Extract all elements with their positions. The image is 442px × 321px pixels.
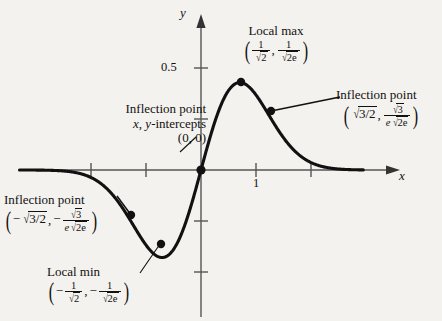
- sqrt-icon: √2e: [280, 51, 298, 63]
- x-tick-label-1: 1: [253, 176, 259, 190]
- paren-open: (: [6, 210, 11, 231]
- inflection-right-y-fraction: √3 e√2e: [383, 103, 411, 128]
- inflection-right-coordinates: (√3/2, √3 e√2e ): [336, 103, 420, 128]
- local-max-x-fraction: 1 √2: [251, 39, 270, 63]
- minus-sign: −: [13, 212, 21, 227]
- annotation-local-min: Local min (− 1 √2 ,− 1 √2e ): [47, 265, 130, 304]
- local-max-coordinates: ( 1 √2 , 1 √2e ): [216, 39, 336, 63]
- sqrt-icon: √2e: [69, 221, 87, 233]
- paren-close: ): [123, 281, 128, 302]
- annotation-inflection-left: Inflection point (−√3/2,− √3 e√2e ): [4, 193, 99, 233]
- local-max-y-fraction: 1 √2e: [277, 39, 301, 63]
- point-inflection-left: [127, 211, 135, 219]
- y-tick-label-0.5: 0.5: [161, 60, 177, 74]
- sqrt-icon: √2: [254, 51, 267, 63]
- y-axis-label: y: [180, 6, 186, 21]
- minus-sign: −: [53, 212, 61, 227]
- paren-close: ): [302, 40, 307, 61]
- point-local-max: [237, 78, 245, 86]
- local-min-y-fraction: 1 √2e: [98, 280, 122, 304]
- paren-open: (: [49, 281, 54, 302]
- point-local-min: [157, 240, 165, 248]
- inflection-left-y-fraction: √3 e√2e: [62, 208, 90, 233]
- point-origin: [196, 165, 205, 174]
- inflection-left-title: Inflection point: [4, 193, 99, 208]
- origin-coordinates: (0, 0): [88, 131, 206, 146]
- local-min-title: Local min: [47, 265, 130, 280]
- local-max-title: Local max: [216, 24, 336, 39]
- sqrt-icon: √3/2: [21, 211, 47, 227]
- origin-intercepts: x, y-intercepts: [88, 117, 206, 132]
- x-axis-label: x: [399, 169, 405, 184]
- sqrt-icon: √3/2: [351, 106, 377, 122]
- sqrt-icon: √3: [69, 208, 82, 220]
- paren-close: ): [413, 105, 418, 126]
- paren-open: (: [244, 40, 249, 61]
- local-min-x-fraction: 1 √2: [64, 280, 83, 304]
- local-min-coordinates: (− 1 √2 ,− 1 √2e ): [47, 280, 130, 304]
- sqrt-icon: √3: [391, 103, 404, 115]
- leader-inflection-right: [271, 97, 340, 111]
- annotation-inflection-right: Inflection point (√3/2, √3 e√2e ): [336, 88, 420, 128]
- paren-close: ): [92, 210, 97, 231]
- point-inflection-right: [267, 107, 275, 115]
- annotation-local-max: Local max ( 1 √2 , 1 √2e ): [216, 24, 336, 63]
- annotation-origin: Inflection point x, y-intercepts (0, 0): [88, 102, 206, 146]
- sqrt-icon: √2: [67, 292, 80, 304]
- minus-sign: −: [56, 284, 64, 299]
- minus-sign: −: [89, 284, 97, 299]
- inflection-left-coordinates: (−√3/2,− √3 e√2e ): [4, 208, 99, 233]
- origin-title: Inflection point: [88, 102, 206, 117]
- sqrt-icon: √2e: [101, 292, 119, 304]
- figure-container: y x 0.5 1 Local max ( 1 √2 , 1 √2e ) Inf…: [0, 0, 442, 321]
- sqrt-icon: √2e: [391, 116, 409, 128]
- paren-open: (: [344, 105, 349, 126]
